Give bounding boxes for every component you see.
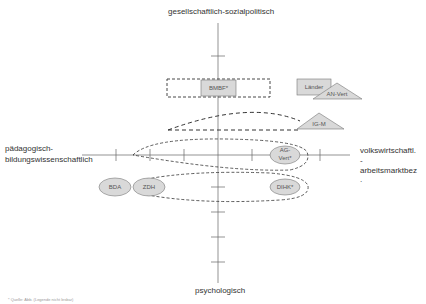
axis-label-right-line4: . [360,175,362,185]
footnote: * Quelle: Abb. (Legende nicht lesbar) [8,297,73,302]
axis-label-right-line2: - [360,156,363,166]
ag-vert-label-line1: AG- [271,147,299,154]
axis-label-left-line1: pädagogisch- [5,144,53,154]
axis-label-top: gesellschaftlich-sozialpolitisch [168,7,274,17]
dihk-label: DIHK* [271,184,299,191]
zdh-label: ZDH [135,184,163,191]
bda-label: BDA [101,184,129,191]
ig-m-label: IG-M [305,121,333,128]
axis-label-right-line1: volkswirtschaftl. [360,146,416,156]
an-vert-label: AN-Vert [322,91,352,98]
axis-label-left-line2: bildungswissenschaftlich [5,155,93,165]
laender-label: Länder [297,84,331,91]
axis-label-bottom: psychologisch [195,286,245,296]
ig-m-dashed-curve [168,112,300,130]
axis-label-right-line3: arbeitsmarktbez [360,166,417,176]
ag-vert-label-line2: Vert* [271,155,299,162]
bmbf-label: BMBF* [201,85,236,92]
